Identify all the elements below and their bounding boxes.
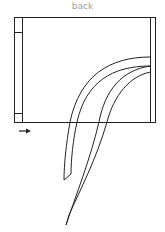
ribbon-long	[66, 66, 151, 225]
direction-arrow	[19, 129, 31, 134]
ribbon-short	[64, 57, 151, 180]
top-left-block	[15, 18, 23, 33]
diagram-canvas	[0, 0, 165, 232]
bottom-left-block	[15, 114, 23, 123]
